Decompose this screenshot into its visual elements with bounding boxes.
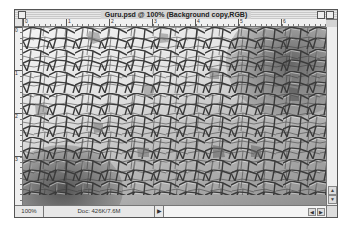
resize-grow-box[interactable] [326,206,337,217]
horizontal-ruler[interactable]: 0 1 2 3 4 5 6 [23,19,326,27]
ruler-tick: 3 [15,156,22,162]
vertical-ruler[interactable]: 0 1 2 3 [15,27,23,205]
scroll-down-arrow-icon[interactable]: ▼ [328,195,337,204]
status-bar: 100% Doc: 426K/7.6M ▶ ◀ ▶ [15,205,337,217]
ruler-tick: 0 [15,27,22,33]
document-window: Guru.psd @ 100% (Background copy,RGB) 0 … [14,9,338,218]
ruler-tick: 6 [281,19,286,26]
stained-glass-cells [23,27,326,195]
zoom-level-field[interactable]: 100% [15,206,44,217]
horizontal-scrollbar[interactable]: ◀ ▶ [164,206,326,217]
ruler-tick: 4 [195,19,200,26]
status-popup-arrow-icon[interactable]: ▶ [155,206,164,217]
window-title: Guru.psd @ 100% (Background copy,RGB) [101,10,251,19]
ruler-tick: 5 [238,19,243,26]
collapse-box-icon[interactable] [326,11,334,19]
ruler-tick: 0 [23,19,28,26]
scroll-up-arrow-icon[interactable]: ▲ [328,186,337,195]
document-size-info: Doc: 426K/7.6M [44,206,155,217]
ruler-origin[interactable] [15,19,23,27]
ruler-tick: 2 [109,19,114,26]
zoom-box-icon[interactable] [317,11,325,19]
scroll-left-arrow-icon[interactable]: ◀ [308,208,316,216]
ruler-tick: 2 [15,113,22,119]
scroll-right-arrow-icon[interactable]: ▶ [317,208,325,216]
ruler-tick: 1 [15,70,22,76]
vertical-scrollbar[interactable]: ▲ ▼ [326,27,337,205]
ruler-tick: 3 [152,19,157,26]
ruler-tick: 1 [66,19,71,26]
image-canvas[interactable] [23,27,326,205]
